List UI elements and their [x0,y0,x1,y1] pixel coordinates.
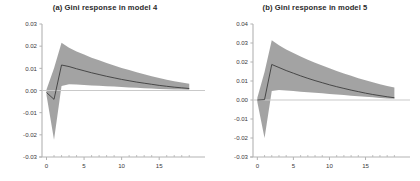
y-tick-label: -0.01 [234,115,249,122]
panel-b: (b) Gini response in model 5 0.040.030.0… [210,0,420,181]
y-tick-label: 0.00 [25,87,37,94]
confidence-band [47,43,190,140]
x-tick-label: 15 [156,162,163,169]
x-tick-label: 5 [82,162,86,169]
y-tick-label: -0.03 [23,153,38,160]
x-tick-label: 5 [292,162,296,169]
y-tick-label: 0.02 [25,42,37,49]
y-tick-label: 0.03 [25,20,37,27]
y-tick-label: 0.00 [236,96,248,103]
panel-b-plot: 0.040.030.020.010.00-0.01-0.02-0.0305101… [210,0,420,181]
y-tick-label: -0.02 [23,131,38,138]
x-tick-label: 10 [326,162,333,169]
y-tick-label: 0.04 [236,20,248,27]
y-tick-label: 0.03 [236,39,248,46]
impulse-response-figure: (a) Gini response in model 4 0.030.020.0… [0,0,420,181]
panel-a: (a) Gini response in model 4 0.030.020.0… [0,0,210,181]
y-tick-label: -0.03 [234,153,249,160]
x-tick-label: 15 [362,162,369,169]
y-tick-label: 0.02 [236,58,248,65]
x-tick-label: 0 [45,162,49,169]
x-tick-label: 10 [118,162,125,169]
y-tick-label: -0.01 [23,109,38,116]
y-tick-label: 0.01 [236,77,248,84]
y-tick-label: 0.01 [25,65,37,72]
x-tick-label: 0 [256,162,260,169]
confidence-band [257,40,394,138]
y-tick-label: -0.02 [234,134,249,141]
panel-a-plot: 0.030.020.010.00-0.01-0.02-0.03051015 [0,0,210,181]
